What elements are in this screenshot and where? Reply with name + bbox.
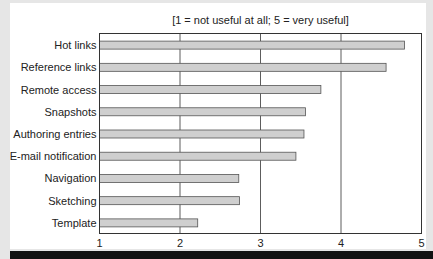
bar [100, 174, 239, 182]
bar [100, 219, 198, 227]
bar [100, 152, 296, 160]
category-label: Navigation [45, 172, 97, 184]
bar-chart: [1 = not useful at all; 5 = very useful]… [0, 0, 433, 259]
category-label: Sketching [48, 195, 96, 207]
x-tick-label: 5 [418, 237, 424, 249]
category-label: Hot links [54, 39, 97, 51]
bar [100, 130, 304, 138]
category-label: Reference links [21, 61, 97, 73]
x-tick-labels: 12345 [96, 237, 424, 249]
bar [100, 41, 405, 49]
bar [100, 63, 387, 71]
category-label: Snapshots [45, 106, 97, 118]
x-tick-label: 1 [96, 237, 102, 249]
category-label: Authoring entries [13, 128, 97, 140]
x-tick-label: 4 [338, 237, 344, 249]
x-tick-label: 2 [177, 237, 183, 249]
category-label: Template [52, 217, 97, 229]
category-labels: Hot linksReference linksRemote accessSna… [10, 39, 97, 229]
chart-title: [1 = not useful at all; 5 = very useful] [172, 14, 349, 26]
bar [100, 86, 321, 94]
bar [100, 108, 306, 116]
bar [100, 197, 240, 205]
category-label: Remote access [21, 84, 97, 96]
x-tick-label: 3 [257, 237, 263, 249]
bars [100, 41, 405, 227]
category-label: E-mail notification [10, 150, 97, 162]
